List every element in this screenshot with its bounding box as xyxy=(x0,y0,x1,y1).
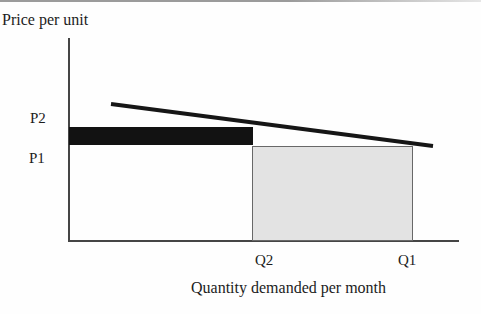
price-rise-revenue-rectangle xyxy=(69,127,253,145)
top-rule xyxy=(0,0,481,2)
x-axis-label: Quantity demanded per month xyxy=(191,279,386,297)
y-axis-label: Price per unit xyxy=(2,11,88,29)
y-tick-label-p1: P1 xyxy=(29,150,45,167)
x-tick-label-q1: Q1 xyxy=(398,252,416,269)
x-tick-label-q2: Q2 xyxy=(255,252,273,269)
quantity-fall-revenue-rectangle xyxy=(252,146,413,241)
price-quantity-figure: Price per unit P2 P1 Q2 Q1 Quantity dema… xyxy=(0,0,481,314)
y-tick-label-p2: P2 xyxy=(30,110,46,127)
